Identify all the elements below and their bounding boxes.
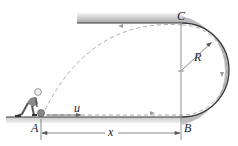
arrow-icon xyxy=(220,72,224,77)
upper-track xyxy=(77,13,182,23)
label-point-c: C xyxy=(177,10,185,22)
ball-trajectory xyxy=(44,25,227,115)
label-point-b: B xyxy=(184,122,191,134)
ball-icon xyxy=(38,110,45,117)
label-radius: R xyxy=(194,51,201,63)
loop-track-diagram: C R u A B x xyxy=(0,0,238,146)
arrow-icon xyxy=(150,111,155,115)
loop-track xyxy=(182,16,229,125)
arrow-icon xyxy=(118,24,123,28)
label-distance: x xyxy=(108,126,113,138)
direction-arrows xyxy=(118,24,224,115)
label-velocity: u xyxy=(74,102,80,114)
label-point-a: A xyxy=(31,122,38,134)
